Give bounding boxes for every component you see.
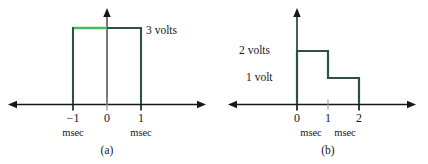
x-axis-b bbox=[228, 101, 416, 108]
panel-caption-a: (a) bbox=[101, 145, 114, 157]
figure-panel-b: 2 volts 1 volt 0 1 2 msec msec (b) bbox=[214, 0, 428, 164]
y-axis-arrow-b bbox=[293, 8, 300, 17]
x-tick-label-zero-b: 0 bbox=[294, 112, 300, 124]
level-2-label-b: 2 volts bbox=[239, 45, 270, 57]
x-tick-label-plus1-a: 1 bbox=[138, 112, 144, 124]
figure-sheet: 3 volts −1 0 1 msec msec (a) bbox=[0, 0, 428, 164]
x-unit-label-right-b: msec bbox=[334, 128, 356, 139]
x-unit-label-right-a: msec bbox=[130, 128, 152, 139]
y-axis-a bbox=[103, 8, 110, 105]
level-1-label-b: 1 volt bbox=[246, 72, 273, 84]
x-axis-arrow-right-b bbox=[407, 101, 416, 108]
staircase-outline-b bbox=[297, 51, 359, 104]
x-axis-arrow-right-a bbox=[197, 101, 206, 108]
amplitude-label-a: 3 volts bbox=[146, 25, 177, 37]
x-unit-label-left-a: msec bbox=[62, 128, 84, 139]
x-tick-label-two-b: 2 bbox=[356, 112, 362, 124]
x-axis-arrow-left-a bbox=[8, 101, 17, 108]
pulse-trace-b bbox=[297, 51, 359, 104]
figure-panel-a: 3 volts −1 0 1 msec msec (a) bbox=[0, 0, 214, 164]
panel-caption-b: (b) bbox=[321, 145, 334, 157]
x-tick-label-zero-a: 0 bbox=[104, 112, 110, 124]
x-tick-label-one-b: 1 bbox=[325, 112, 331, 124]
x-unit-label-left-b: msec bbox=[300, 128, 322, 139]
x-tick-label-minus1-a: −1 bbox=[67, 112, 80, 124]
x-axis-arrow-left-b bbox=[228, 101, 237, 108]
waveform-plot-a bbox=[0, 0, 214, 164]
y-axis-arrow-a bbox=[103, 8, 110, 17]
